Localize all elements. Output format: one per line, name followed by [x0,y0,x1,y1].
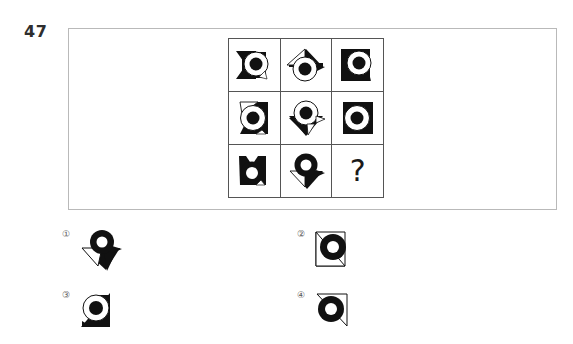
answer-option-3-label: ③ [62,291,70,300]
arrow-down-right-solid-with-white-ring-dot-icon [76,287,128,337]
matrix-cell-r1c3[interactable] [332,39,383,91]
question-number: 47 [24,22,47,41]
matrix-cell-r2c1[interactable] [229,92,280,144]
arrow-up-with-ring-icon [283,43,329,87]
arrow-left-down-with-ring-icon [336,43,380,87]
matrix-cell-r3c2[interactable] [281,145,332,197]
arrow-up-right-outline-with-black-ring-icon [311,287,363,337]
arrow-right-up-with-ring-icon [336,96,380,140]
arrow-left-with-ring-icon [232,43,276,87]
arrow-down-left-outline-with-black-ring-icon [311,226,363,276]
matrix-cell-r1c2[interactable] [281,39,332,91]
answer-option-1[interactable]: ① [62,226,134,276]
matrix-cell-r1c1[interactable] [229,39,280,91]
matrix-cell-r2c2[interactable] [281,92,332,144]
answer-option-1-label: ① [62,230,70,239]
arrow-down-solid-with-white-ring-icon [283,149,329,193]
black-blob-with-white-ring-icon [232,149,276,193]
arrow-right-outline-with-ring-icon [232,96,276,140]
answer-option-4-label: ④ [297,291,305,300]
matrix-cell-r3c1[interactable] [229,145,280,197]
answer-option-2[interactable]: ② [297,226,363,276]
question-mark-placeholder: ? [350,156,366,186]
arrow-down-with-ring-icon [283,96,329,140]
answer-option-3[interactable]: ③ [62,287,128,337]
figure-matrix: ? [228,38,384,198]
answer-option-2-label: ② [297,230,305,239]
matrix-cell-r3c3[interactable]: ? [332,145,383,197]
matrix-cell-r2c3[interactable] [332,92,383,144]
answer-option-4[interactable]: ④ [297,287,363,337]
arrow-down-right-solid-with-white-ring-icon [76,226,134,276]
